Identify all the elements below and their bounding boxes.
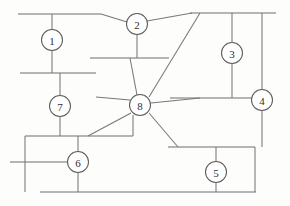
node-4[interactable]: 4 xyxy=(252,90,273,111)
diagram-canvas: 12345678 xyxy=(0,0,290,206)
node-5[interactable]: 5 xyxy=(206,162,227,183)
tie-node-8-to-bus-mid-left xyxy=(96,97,130,100)
node-label-1: 1 xyxy=(49,35,55,47)
node-1[interactable]: 1 xyxy=(42,30,63,51)
node-label-5: 5 xyxy=(213,167,219,179)
tie-bus-mid-center-to-node-8 xyxy=(130,58,137,95)
network-diagram: 12345678 xyxy=(0,0,290,206)
tie-node-8-to-bus-top-right xyxy=(149,13,200,97)
node-label-3: 3 xyxy=(229,48,235,60)
node-label-2: 2 xyxy=(134,19,140,31)
node-label-6: 6 xyxy=(75,157,81,169)
tie-node-8-to-bus-node6-left xyxy=(88,113,131,136)
node-label-4: 4 xyxy=(259,95,265,107)
node-8[interactable]: 8 xyxy=(130,95,151,116)
tie-node-2-to-bus-top-right xyxy=(147,13,192,21)
tie-node-8-to-bus-lower-right xyxy=(149,113,178,147)
node-label-8: 8 xyxy=(137,100,143,112)
node-3[interactable]: 3 xyxy=(222,43,243,64)
node-label-7: 7 xyxy=(57,101,63,113)
node-2[interactable]: 2 xyxy=(127,14,148,35)
tie-bus-top-left-to-node-2 xyxy=(101,14,127,22)
node-6[interactable]: 6 xyxy=(68,152,89,173)
node-7[interactable]: 7 xyxy=(50,96,71,117)
stub-node-8-to-bus-mid-right xyxy=(151,98,200,103)
